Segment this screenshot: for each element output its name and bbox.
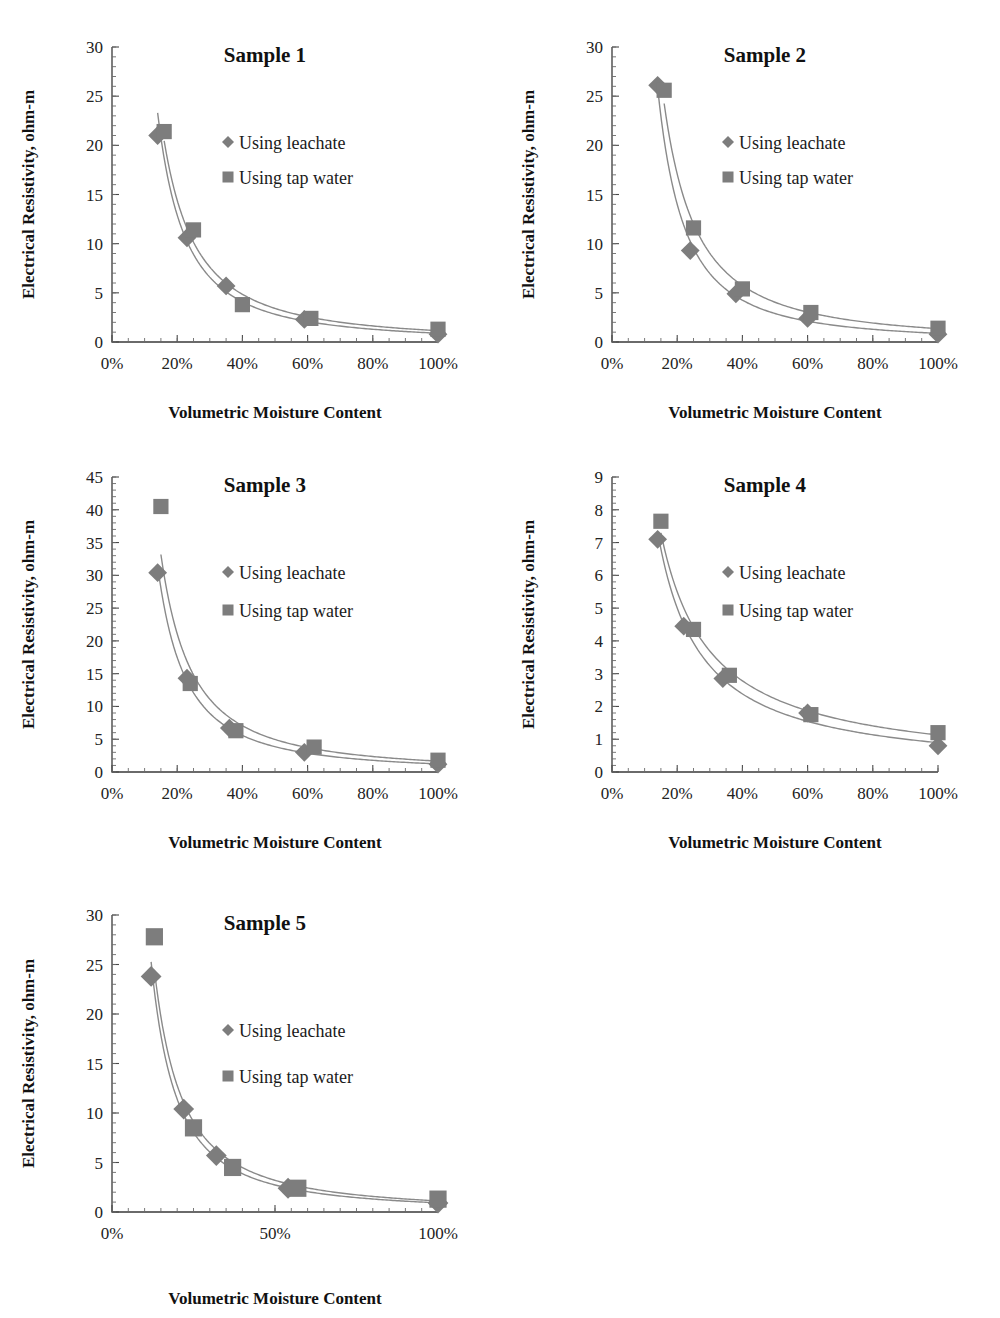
legend: Using leachateUsing tap water <box>222 133 353 188</box>
legend-square-marker-icon <box>723 172 734 183</box>
x-tick-label: 60% <box>792 784 823 803</box>
data-point-tapwater <box>653 514 668 529</box>
x-tick-label: 0% <box>101 784 124 803</box>
y-tick-label: 10 <box>86 235 103 254</box>
data-point-tapwater <box>186 222 201 237</box>
y-axis-title: Electrical Resistivity, ohm-m <box>519 90 538 299</box>
x-tick-label: 80% <box>857 354 888 373</box>
data-point-tapwater <box>803 305 818 320</box>
y-tick-label: 15 <box>586 186 603 205</box>
series-tapwater <box>653 514 945 741</box>
data-point-leachate <box>141 966 162 987</box>
data-point-tapwater <box>429 1191 446 1208</box>
data-point-tapwater <box>183 676 198 691</box>
legend-label-tapwater: Using tap water <box>739 168 853 188</box>
x-axis-title: Volumetric Moisture Content <box>668 833 882 852</box>
chart-svg: 0510152025303540450%20%40%60%80%100%Samp… <box>0 430 500 860</box>
x-tick-label: 40% <box>727 354 758 373</box>
data-point-tapwater <box>686 220 701 235</box>
legend-square-marker-icon <box>223 1071 234 1082</box>
legend: Using leachateUsing tap water <box>722 563 853 621</box>
chart-svg: 0510152025300%50%100%Sample 5Electrical … <box>0 860 500 1318</box>
legend-square-marker-icon <box>723 605 734 616</box>
axes: 01234567890%20%40%60%80%100% <box>595 468 958 803</box>
chart-panel-sample-4: 01234567890%20%40%60%80%100%Sample 4Elec… <box>500 430 1000 860</box>
y-tick-label: 9 <box>595 468 604 487</box>
x-tick-label: 20% <box>162 354 193 373</box>
chart-panel-sample-5: 0510152025300%50%100%Sample 5Electrical … <box>0 860 500 1318</box>
y-tick-label: 20 <box>86 632 103 651</box>
trend-line-leachate <box>658 88 938 333</box>
legend: Using leachateUsing tap water <box>222 1021 353 1087</box>
x-tick-label: 40% <box>227 354 258 373</box>
x-tick-label: 100% <box>918 354 958 373</box>
legend-label-leachate: Using leachate <box>739 133 845 153</box>
y-tick-label: 25 <box>86 956 103 975</box>
y-tick-label: 45 <box>86 468 103 487</box>
y-tick-label: 0 <box>95 1203 104 1222</box>
x-tick-label: 80% <box>357 354 388 373</box>
y-tick-label: 7 <box>595 534 604 553</box>
y-tick-label: 5 <box>95 1154 104 1173</box>
x-tick-label: 20% <box>162 784 193 803</box>
legend: Using leachateUsing tap water <box>222 563 353 621</box>
y-tick-label: 20 <box>586 136 603 155</box>
series-tapwater <box>157 124 446 337</box>
series-tapwater <box>153 499 445 768</box>
y-axis-title: Electrical Resistivity, ohm-m <box>519 520 538 729</box>
chart-title: Sample 2 <box>724 43 806 67</box>
legend-square-marker-icon <box>223 605 234 616</box>
data-point-tapwater <box>686 622 701 637</box>
chart-title: Sample 3 <box>224 473 306 497</box>
y-tick-label: 0 <box>595 763 604 782</box>
y-tick-label: 25 <box>86 599 103 618</box>
figure-sheet: 0510152025300%20%40%60%80%100%Sample 1El… <box>0 0 1000 1318</box>
legend-label-leachate: Using leachate <box>239 563 345 583</box>
chart-svg: 0510152025300%20%40%60%80%100%Sample 2El… <box>500 0 1000 430</box>
x-axis-title: Volumetric Moisture Content <box>168 1289 382 1308</box>
x-axis-title: Volumetric Moisture Content <box>168 403 382 422</box>
chart-title: Sample 4 <box>724 473 807 497</box>
y-tick-label: 3 <box>595 665 604 684</box>
axes: 0510152025300%20%40%60%80%100% <box>86 38 458 373</box>
legend-label-tapwater: Using tap water <box>239 168 353 188</box>
y-axis-title: Electrical Resistivity, ohm-m <box>19 90 38 299</box>
x-tick-label: 60% <box>292 354 323 373</box>
data-point-tapwater <box>803 707 818 722</box>
x-tick-label: 0% <box>601 354 624 373</box>
data-point-tapwater <box>146 928 163 945</box>
legend-label-leachate: Using leachate <box>239 133 345 153</box>
data-point-tapwater <box>735 281 750 296</box>
y-tick-label: 20 <box>86 1005 103 1024</box>
y-tick-label: 8 <box>595 501 604 520</box>
legend-diamond-marker-icon <box>222 136 234 148</box>
x-tick-label: 50% <box>259 1224 290 1243</box>
x-tick-label: 40% <box>727 784 758 803</box>
x-tick-label: 100% <box>918 784 958 803</box>
y-tick-label: 15 <box>86 1055 103 1074</box>
y-tick-label: 35 <box>86 534 103 553</box>
y-tick-label: 0 <box>95 763 104 782</box>
data-point-tapwater <box>307 739 322 754</box>
data-point-tapwater <box>235 297 250 312</box>
legend-diamond-marker-icon <box>722 136 734 148</box>
series-leachate <box>648 76 947 344</box>
data-point-tapwater <box>303 311 318 326</box>
y-tick-label: 30 <box>86 566 103 585</box>
y-tick-label: 0 <box>95 333 104 352</box>
data-point-leachate <box>217 277 236 296</box>
x-axis-title: Volumetric Moisture Content <box>168 833 382 852</box>
trend-line-tapwater <box>161 554 438 761</box>
series-leachate <box>148 563 447 773</box>
x-tick-label: 80% <box>857 784 888 803</box>
legend-label-leachate: Using leachate <box>239 1021 345 1041</box>
axes: 0510152025303540450%20%40%60%80%100% <box>86 468 458 803</box>
y-tick-label: 25 <box>586 87 603 106</box>
trend-line-leachate <box>158 566 438 764</box>
y-tick-label: 4 <box>595 632 604 651</box>
legend-diamond-marker-icon <box>222 1024 234 1036</box>
y-tick-label: 10 <box>86 697 103 716</box>
data-point-tapwater <box>722 668 737 683</box>
legend-diamond-marker-icon <box>222 566 234 578</box>
y-tick-label: 15 <box>86 665 103 684</box>
